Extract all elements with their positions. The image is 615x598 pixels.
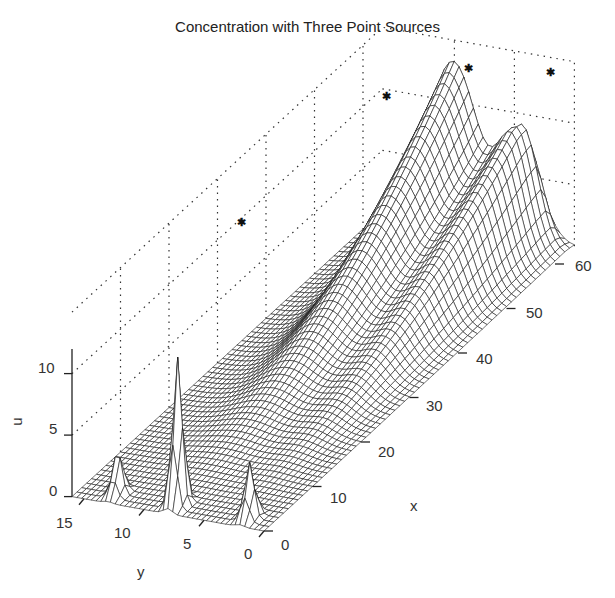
surface-mesh: [72, 62, 574, 532]
y-tick-label: 0: [244, 545, 252, 562]
chart-figure: ✱✱✱✱: [0, 0, 615, 598]
star-marker-icon: ✱: [464, 62, 473, 74]
side-grid-line: [382, 89, 574, 123]
z-tick-label: 5: [49, 420, 57, 437]
y-axis-tick: [199, 520, 204, 526]
x-tick-label: 20: [378, 443, 395, 460]
surface-plot: ✱✱✱✱: [0, 0, 615, 598]
x-tick-label: 60: [575, 257, 592, 274]
x-axis-label: x: [410, 497, 418, 514]
x-tick-label: 10: [330, 489, 347, 506]
z-axis-label: u: [8, 417, 25, 425]
z-tick-label: 10: [38, 359, 55, 376]
y-tick-label: 15: [56, 514, 73, 531]
y-axis-label: y: [137, 563, 145, 580]
x-tick-label: 40: [476, 350, 493, 367]
star-marker-icon: ✱: [237, 216, 246, 228]
chart-title: Concentration with Three Point Sources: [0, 18, 615, 35]
y-axis-tick: [259, 531, 264, 537]
y-tick-label: 5: [183, 535, 191, 552]
y-axis-tick: [139, 510, 144, 516]
star-marker-icon: ✱: [546, 66, 555, 78]
z-tick-label: 0: [49, 482, 57, 499]
y-tick-label: 10: [114, 524, 131, 541]
y-axis-tick: [79, 499, 84, 505]
x-tick-label: 30: [426, 397, 443, 414]
star-marker-icon: ✱: [382, 90, 391, 102]
x-tick-label: 50: [526, 304, 543, 321]
x-tick-label: 0: [281, 536, 289, 553]
